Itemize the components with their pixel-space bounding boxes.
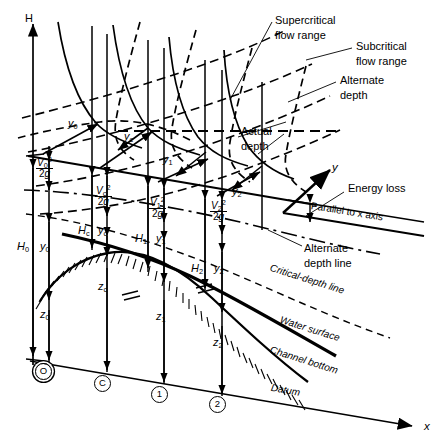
label-y1-dim: y1 [156,232,166,244]
station-marker-c: C [94,375,111,392]
label-energy-loss: Energy loss [348,182,405,194]
label-yc-dim: yc [98,224,107,236]
water-surface-line [62,234,336,356]
label-h0: H0 [17,240,29,252]
axis-label-x: x [424,420,430,433]
energy-diagram-figure: H x y Supercritical flow range Subcritic… [0,0,444,446]
label-velocity-head-0: V02 2g [36,158,53,179]
label-supercritical-line2: flow range [275,29,326,41]
label-y0-vector: y0 [68,117,78,129]
channel-bottom-hatching [36,252,305,410]
label-h2: H2 [191,262,203,274]
label-velocity-head-1: V12 2g [149,198,166,219]
label-alternate-depth-line-l2: depth line [304,257,352,269]
label-actual-depth-line2: depth [241,140,269,152]
label-y0-dim: y0 [40,240,50,252]
label-z1: z1 [156,310,166,322]
station-marker-1: 1 [151,386,168,403]
label-alternate-depth-line1: Alternate [340,74,384,86]
label-alternate-depth-line-l1: Alternate [304,242,348,254]
dimension-arrows [33,160,310,394]
label-subcritical-line1: Subcritical [356,40,407,52]
x-axis-datum [30,361,412,426]
label-z0: z0 [40,308,50,320]
label-y2-vector: y2 [232,185,242,197]
label-alternate-depth-line2: depth [340,89,368,101]
label-velocity-head-c: Vc2 2g [95,186,112,207]
label-h1: H1 [135,232,147,244]
label-y2-dim: y2 [214,262,224,274]
axis-label-y: y [332,161,338,174]
label-zc: zc [98,280,107,292]
label-velocity-head-2: V22 2g [210,201,227,222]
label-subcritical-line2: flow range [356,55,407,67]
label-z2: z2 [213,336,223,348]
label-yc-vector: yc [124,130,133,142]
label-y1-vector: y1 [163,153,173,165]
label-hc: Hc [78,224,90,236]
station-marker-2: 2 [209,396,226,413]
specific-energy-curves-dashed [18,22,306,192]
axis-label-h: H [25,12,33,24]
label-actual-depth-line1: Actual [241,125,272,137]
label-supercritical-line1: Supercritical [275,14,336,26]
station-marker-0: O [35,363,52,380]
